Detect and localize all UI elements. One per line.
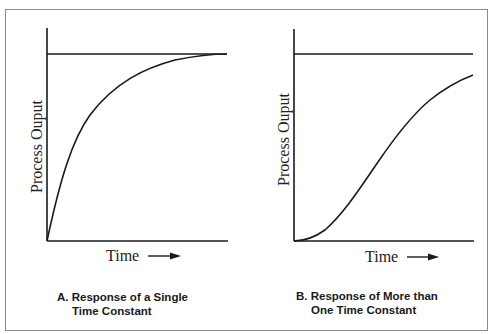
panel-a-caption: A. Response of a Single Time Constant [57, 290, 188, 318]
panel-b-time-arrow-icon [428, 254, 439, 261]
panel-a-y-axis-label: Process Ouput [28, 100, 46, 193]
panel-a-caption-line2: Time Constant [57, 304, 188, 318]
panel-a-plot [47, 28, 228, 260]
panel-b-x-axis-label: Time [365, 248, 398, 266]
plots-canvas [0, 0, 495, 334]
panel-a-time-arrow-icon [170, 253, 181, 260]
panel-a-response-curve [47, 54, 227, 241]
panel-a-caption-line1: A. Response of a Single [57, 291, 188, 303]
panel-b-y-axis-label: Process Ouput [275, 93, 293, 186]
panel-b-caption-line1: B. Response of More than [296, 290, 438, 302]
panel-a-x-axis-label: Time [106, 247, 139, 265]
panel-b-caption-line2: One Time Constant [296, 303, 438, 317]
panel-b-caption: B. Response of More than One Time Consta… [296, 289, 438, 317]
panel-b-response-curve [294, 75, 473, 241]
panel-b-plot [294, 29, 474, 261]
